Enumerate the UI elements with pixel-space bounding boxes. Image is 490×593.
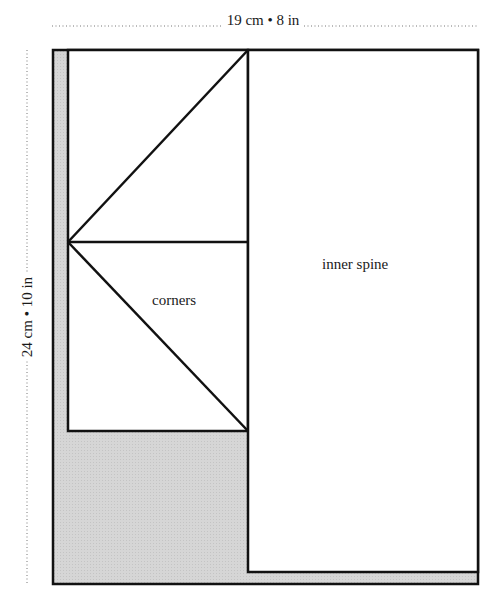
height-dimension-label: 24 cm • 10 in [19,273,36,361]
width-dimension: 19 cm • 8 in [0,12,490,29]
width-dimension-label: 19 cm • 8 in [223,12,304,28]
corners-panel [68,50,248,431]
inner-spine-panel [248,50,478,572]
inner-spine-label: inner spine [322,256,388,273]
corners-label: corners [152,292,196,309]
board-layout-diagram [0,0,490,593]
